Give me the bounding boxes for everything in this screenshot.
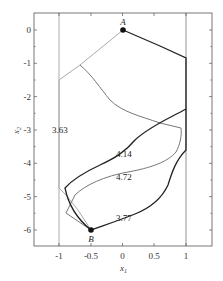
curve-4-72 (66, 65, 181, 230)
y-axis-label: x2 (11, 127, 22, 135)
label-4-14: 4.14 (116, 149, 132, 159)
svg-text:-1: -1 (55, 251, 63, 261)
svg-text:0: 0 (120, 251, 125, 261)
svg-text:-2: -2 (24, 92, 32, 102)
svg-text:0.5: 0.5 (148, 251, 160, 261)
label-3-77: 3.77 (116, 213, 132, 223)
svg-text:x2: x2 (11, 127, 22, 135)
label-3-63: 3.63 (52, 125, 68, 135)
label-b: B (88, 234, 94, 244)
svg-text:-3: -3 (24, 125, 32, 135)
svg-text:-5: -5 (24, 192, 32, 202)
point-a (120, 27, 126, 33)
svg-text:-0.5: -0.5 (84, 251, 99, 261)
x-ticks (59, 13, 186, 246)
label-4-72: 4.72 (116, 172, 132, 182)
svg-text:-6: -6 (24, 225, 32, 235)
x-axis-label: x1 (119, 263, 127, 274)
svg-text:0: 0 (27, 25, 32, 35)
svg-text:-1: -1 (24, 58, 32, 68)
point-b (88, 227, 94, 233)
svg-text:1: 1 (184, 251, 189, 261)
label-a: A (119, 17, 126, 27)
curve-4-14 (65, 30, 186, 230)
chart: 0 -1 -2 -3 -4 -5 -6 -1 -0.5 0 0.5 1 x1 x… (0, 0, 223, 281)
x-tick-labels: -1 -0.5 0 0.5 1 (55, 251, 188, 261)
svg-text:-4: -4 (24, 158, 32, 168)
y-tick-labels: 0 -1 -2 -3 -4 -5 -6 (24, 25, 32, 235)
